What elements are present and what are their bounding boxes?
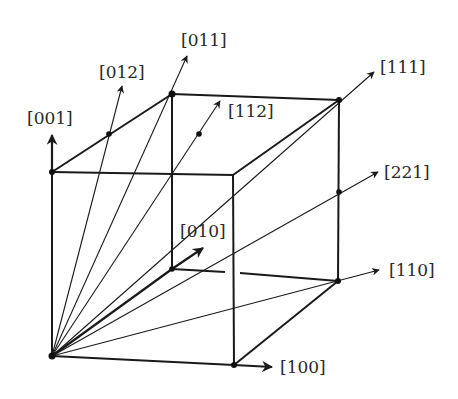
edge-bottom-back-2 — [240, 273, 338, 281]
edge-front-right — [233, 175, 234, 365]
point-bottom-back-right — [335, 278, 341, 284]
point-012-midpoint — [106, 131, 112, 137]
label-221: [221] — [384, 162, 430, 182]
vector-010-tip — [172, 248, 203, 269]
unit-cell-diagram: [001] [012] [011] [112] [111] [221] [010… — [0, 0, 458, 399]
edge-bottom-right — [234, 281, 338, 365]
vector-221 — [52, 172, 378, 356]
point-top-back-right — [336, 97, 342, 103]
vector-100 — [234, 365, 272, 367]
label-011: [011] — [181, 30, 227, 50]
point-origin — [49, 353, 56, 360]
point-top-back-left — [169, 91, 176, 98]
direction-labels: [001] [012] [011] [112] [111] [221] [010… — [27, 30, 435, 377]
point-221-midpoint — [336, 189, 342, 195]
edge-top-left — [52, 94, 172, 172]
label-111: [111] — [380, 57, 426, 77]
label-100: [100] — [280, 357, 326, 377]
vector-010 — [52, 269, 172, 356]
edge-front-top — [52, 172, 233, 175]
label-012: [012] — [99, 62, 145, 82]
edge-front-bottom — [52, 356, 234, 365]
point-112-center — [196, 131, 202, 137]
label-112: [112] — [228, 101, 274, 121]
point-top-front-left — [49, 169, 55, 175]
label-001: [001] — [27, 108, 73, 128]
edge-bottom-back — [172, 269, 225, 272]
label-010: [010] — [180, 221, 226, 241]
label-110: [110] — [389, 260, 435, 280]
point-bottom-front-right — [231, 362, 237, 368]
vector-011 — [52, 56, 187, 356]
point-bottom-back-left — [169, 266, 175, 272]
direction-vectors — [52, 56, 379, 367]
edge-top-back — [172, 94, 339, 100]
